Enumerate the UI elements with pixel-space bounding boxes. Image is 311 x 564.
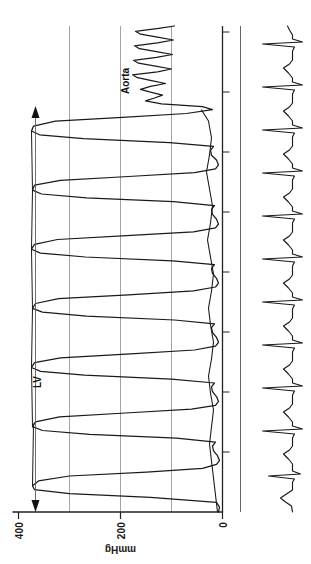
gradient-arrow-head-right — [31, 106, 39, 118]
hemodynamic-pressure-figure: 0 200 400 mmHg LV Aorta — [0, 0, 311, 564]
ecg-strip — [240, 26, 302, 512]
gradient-arrow-head-left — [31, 500, 39, 512]
pressure-traces — [31, 26, 219, 512]
gridlines — [69, 26, 171, 512]
lv-upstroke-limbs — [31, 131, 33, 486]
y-tick-label-0: 0 — [217, 522, 228, 528]
y-tick-label-400: 400 — [13, 522, 24, 540]
y-tick-label-200: 200 — [115, 522, 126, 540]
y-axis-ticks — [18, 512, 222, 519]
lv-aorta-trace — [31, 26, 219, 512]
ecg-trace — [262, 26, 302, 512]
y-axis-title: mmHg — [104, 544, 135, 555]
chart-svg: 0 200 400 mmHg LV Aorta — [0, 0, 311, 564]
aorta-trace-label: Aorta — [119, 67, 130, 94]
figure-rotator: 0 200 400 mmHg LV Aorta — [0, 0, 311, 564]
lv-trace-label: LV — [31, 376, 42, 388]
